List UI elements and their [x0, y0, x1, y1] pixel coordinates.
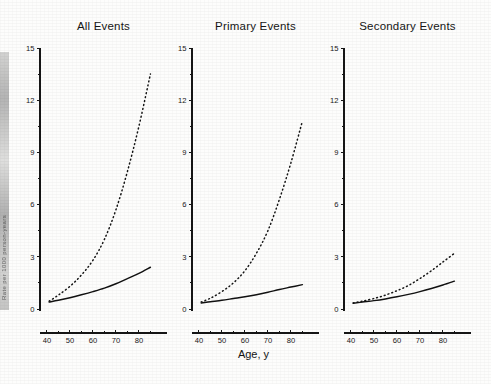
y-tick-label: 9 — [30, 148, 34, 157]
panel-title: Primary Events — [215, 20, 296, 32]
y-tick-label: 6 — [182, 200, 186, 209]
x-axis-label: Age, y — [238, 348, 270, 360]
x-tick-label: 50 — [66, 336, 74, 345]
x-tick-label: 40 — [43, 336, 51, 345]
dotted-curve — [49, 74, 150, 301]
y-tick-label: 3 — [334, 253, 338, 262]
x-tick-label: 60 — [393, 336, 401, 345]
y-tick-label: 15 — [330, 44, 338, 53]
panel-title: All Events — [77, 20, 130, 32]
y-tick-label: 0 — [182, 305, 186, 314]
y-tick-label: 9 — [182, 148, 186, 157]
chart-panel-2: Primary Events036912154050607080 — [178, 20, 319, 345]
y-tick-label: 12 — [330, 96, 338, 105]
x-tick-label: 40 — [195, 336, 203, 345]
y-tick-label: 3 — [182, 253, 186, 262]
x-tick-label: 80 — [439, 336, 447, 345]
y-axis-label: Rate per 1000 person-years — [1, 215, 7, 300]
y-tick-label: 6 — [30, 200, 34, 209]
panel-title: Secondary Events — [359, 20, 456, 32]
x-tick-label: 80 — [287, 336, 295, 345]
three-panel-line-chart: All Events036912154050607080Primary Even… — [0, 0, 491, 384]
y-tick-label: 6 — [334, 200, 338, 209]
x-tick-label: 40 — [347, 336, 355, 345]
solid-curve — [49, 267, 150, 302]
x-tick-label: 70 — [112, 336, 120, 345]
x-tick-label: 80 — [135, 336, 143, 345]
x-tick-label: 70 — [264, 336, 272, 345]
x-tick-label: 50 — [218, 336, 226, 345]
y-tick-label: 0 — [30, 305, 34, 314]
figure-container: All Events036912154050607080Primary Even… — [0, 0, 491, 384]
y-tick-label: 3 — [30, 253, 34, 262]
y-tick-label: 15 — [26, 44, 34, 53]
y-tick-label: 12 — [178, 96, 186, 105]
y-tick-label: 15 — [178, 44, 186, 53]
dotted-curve — [201, 121, 302, 302]
y-tick-label: 9 — [334, 148, 338, 157]
chart-panel-1: All Events036912154050607080 — [26, 20, 167, 345]
x-tick-label: 70 — [416, 336, 424, 345]
x-tick-label: 50 — [370, 336, 378, 345]
y-tick-label: 0 — [334, 305, 338, 314]
x-tick-label: 60 — [89, 336, 97, 345]
scanned-figure-page: All Events036912154050607080Primary Even… — [0, 0, 491, 384]
chart-panel-3: Secondary Events036912154050607080 — [330, 20, 471, 345]
y-tick-label: 12 — [26, 96, 34, 105]
x-tick-label: 60 — [241, 336, 249, 345]
solid-curve — [201, 285, 302, 303]
